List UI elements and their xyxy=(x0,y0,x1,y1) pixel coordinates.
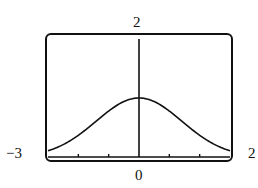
chart-svg xyxy=(0,0,258,188)
x-origin-label: 0 xyxy=(135,168,143,183)
x-min-label: −3 xyxy=(6,146,22,161)
x-max-label: 2 xyxy=(248,146,256,161)
y-max-label: 2 xyxy=(133,15,141,30)
